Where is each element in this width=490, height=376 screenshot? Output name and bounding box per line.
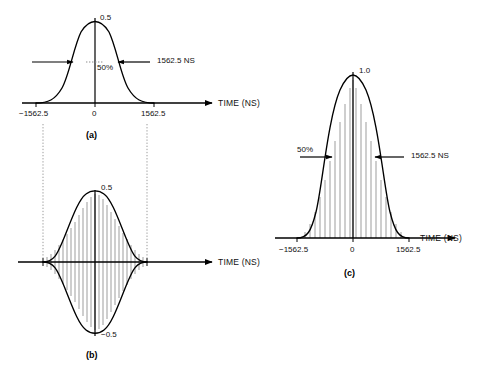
figure-canvas: 0.5 50% 1562.5 NS TIME (NS) −1562.5 0 15… xyxy=(0,0,490,376)
panel-a-width-label: 1562.5 NS xyxy=(157,57,195,65)
panel-a-axis-label: TIME (NS) xyxy=(218,99,260,108)
panel-c-axis-label: TIME (NS) xyxy=(420,234,462,243)
panel-c-peak-label: 1.0 xyxy=(359,67,370,75)
panel-a-tick-label-right: 1562.5 xyxy=(141,110,165,118)
panel-c-tick-label-left: −1562.5 xyxy=(279,246,308,254)
panel-c-caption: (c) xyxy=(344,269,355,278)
panel-c-tick-label-right: 1562.5 xyxy=(396,246,420,254)
panel-a-half-label: 50% xyxy=(97,64,113,72)
panel-b-plot xyxy=(18,190,212,336)
panel-a-tick-label-left: −1562.5 xyxy=(19,110,48,118)
panel-b-min-label: −0.5 xyxy=(101,331,117,339)
panel-b-caption: (b) xyxy=(86,351,98,360)
panel-a-caption: (a) xyxy=(86,131,97,140)
panel-b-axis-label: TIME (NS) xyxy=(218,258,260,267)
panel-c-tick-label-center: 0 xyxy=(350,246,354,254)
figure-svg xyxy=(0,0,490,376)
panel-a-peak-label: 0.5 xyxy=(100,14,111,22)
panel-b-peak-label: 0.5 xyxy=(101,184,112,192)
panel-c-width-label: 1562.5 NS xyxy=(411,152,449,160)
panel-a-tick-label-center: 0 xyxy=(92,110,96,118)
panel-c-half-label: 50% xyxy=(297,146,313,154)
